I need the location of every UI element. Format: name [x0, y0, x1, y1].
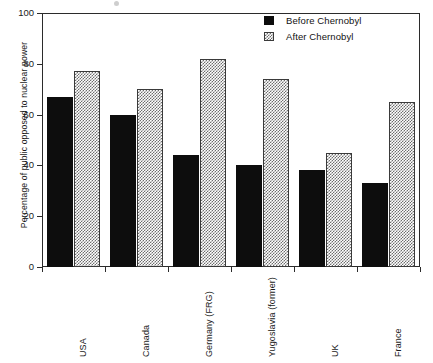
y-axis-tick-label: 100 [4, 8, 34, 18]
legend-label: Before Chernobyl [286, 15, 362, 26]
x-axis-category-label: Germany (FRG) [204, 291, 214, 357]
bar-after-chernobyl [200, 59, 227, 267]
bar-before-chernobyl [362, 183, 389, 267]
legend-item: Before Chernobyl [264, 14, 362, 27]
x-axis-tick-mark [294, 267, 295, 272]
bar-series-container [42, 13, 420, 267]
bar-chart-figure: Percentage of public opposed to nuclear … [0, 0, 433, 363]
bar-group [105, 13, 168, 267]
legend-swatch-before-icon [264, 16, 274, 25]
x-axis-tick-mark [105, 267, 106, 272]
bar-group [231, 13, 294, 267]
bar-after-chernobyl [263, 79, 290, 267]
legend-label: After Chernobyl [286, 31, 354, 42]
y-axis-tick-label: 80 [4, 59, 34, 69]
y-axis-tick-labels: 020406080100 [0, 0, 34, 363]
y-axis-tick-label: 20 [4, 211, 34, 221]
x-axis-category-label: France [393, 328, 403, 357]
x-axis-tick-mark [231, 267, 232, 272]
bar-before-chernobyl [47, 97, 74, 267]
legend-swatch-after-icon [264, 32, 274, 41]
x-axis-tick-mark [168, 267, 169, 272]
bar-group [294, 13, 357, 267]
x-axis-category-label: Canada [141, 325, 151, 357]
bar-after-chernobyl [74, 71, 101, 267]
x-axis-tick-mark [357, 267, 358, 272]
chart-legend: Before ChernobylAfter Chernobyl [251, 11, 421, 48]
x-axis-category-label: USA [78, 338, 88, 357]
bar-group [42, 13, 105, 267]
bar-before-chernobyl [299, 170, 326, 267]
y-axis-tick-label: 0 [4, 262, 34, 272]
bar-after-chernobyl [137, 89, 164, 267]
x-axis-category-label: UK [330, 344, 340, 357]
x-axis-category-label: Yugoslavia (former) [267, 277, 277, 357]
bar-before-chernobyl [110, 115, 137, 267]
bar-group [357, 13, 420, 267]
bar-before-chernobyl [173, 155, 200, 267]
bar-after-chernobyl [389, 102, 416, 267]
legend-item: After Chernobyl [264, 30, 354, 43]
scan-artifact-speck [114, 1, 119, 6]
y-axis-tick-label: 40 [4, 160, 34, 170]
x-axis-tick-mark [420, 267, 421, 272]
x-axis-tick-mark [42, 267, 43, 272]
y-axis-tick-label: 60 [4, 110, 34, 120]
bar-before-chernobyl [236, 165, 263, 267]
bar-after-chernobyl [326, 153, 353, 267]
bar-group [168, 13, 231, 267]
